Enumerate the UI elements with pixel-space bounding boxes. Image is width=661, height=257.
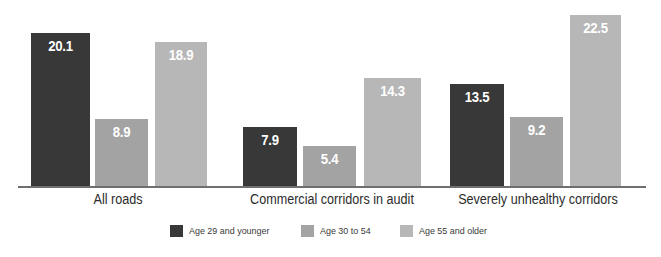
legend-item-label: Age 29 and younger	[189, 225, 269, 237]
bar-commercial-corridors-age55[interactable]: 14.3	[364, 78, 421, 188]
bar-severely-unhealthy-age55[interactable]: 22.5	[570, 15, 621, 188]
bar-all-roads-age29[interactable]: 20.1	[31, 33, 90, 188]
bar-commercial-corridors-age29[interactable]: 7.9	[243, 127, 297, 188]
bar-value-label: 18.9	[158, 46, 204, 63]
bar-severely-unhealthy-age30to54[interactable]: 9.2	[510, 117, 563, 188]
bar-commercial-corridors-age30to54[interactable]: 5.4	[303, 146, 356, 188]
legend-item-age55[interactable]: Age 55 and older	[400, 225, 491, 237]
legend-swatch-icon	[400, 225, 413, 237]
legend-item-label: Age 55 and older	[419, 225, 487, 237]
bar-chart: 20.1 8.9 18.9 7.9 5.4 14.3 13.5 9.2 22.5	[0, 0, 661, 257]
bar-value-label: 9.2	[513, 121, 560, 138]
legend-item-age29[interactable]: Age 29 and younger	[170, 225, 275, 237]
chart-legend: Age 29 and younger Age 30 to 54 Age 55 a…	[0, 222, 661, 240]
bar-value-label: 13.5	[453, 88, 501, 105]
bar-value-label: 22.5	[573, 19, 618, 36]
bar-value-label: 7.9	[246, 131, 294, 148]
bar-value-label: 20.1	[35, 37, 87, 54]
plot-area: 20.1 8.9 18.9 7.9 5.4 14.3 13.5 9.2 22.5	[0, 0, 661, 188]
bar-severely-unhealthy-age29[interactable]: 13.5	[450, 84, 504, 188]
x-axis-line	[18, 186, 646, 188]
category-label-all-roads: All roads	[28, 190, 208, 209]
category-label-severely-unhealthy: Severely unhealthy corridors	[441, 190, 635, 209]
bar-value-label: 14.3	[367, 82, 417, 99]
bar-value-label: 5.4	[306, 150, 353, 167]
bar-value-label: 8.9	[98, 123, 145, 140]
legend-item-label: Age 30 to 54	[320, 225, 371, 237]
category-axis-labels: All roads Commercial corridors in audit …	[0, 190, 661, 212]
legend-swatch-icon	[301, 225, 314, 237]
legend-item-age30to54[interactable]: Age 30 to 54	[301, 225, 374, 237]
category-label-commercial-corridors: Commercial corridors in audit	[233, 190, 431, 209]
bar-all-roads-age55[interactable]: 18.9	[155, 42, 207, 188]
legend-swatch-icon	[170, 225, 183, 237]
bar-all-roads-age30to54[interactable]: 8.9	[95, 119, 148, 188]
